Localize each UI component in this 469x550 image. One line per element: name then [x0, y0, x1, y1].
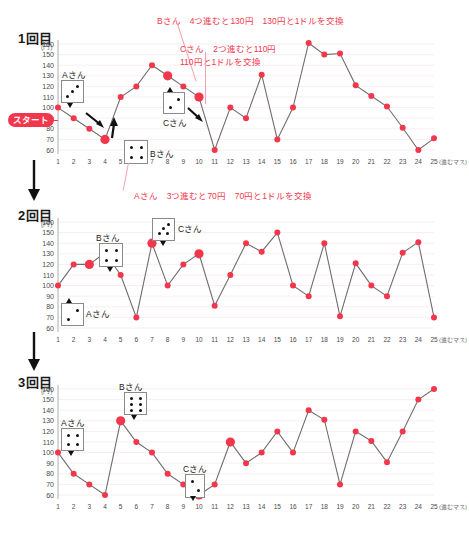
data-point	[163, 71, 172, 80]
x-tick-label: 10	[195, 503, 203, 510]
data-point	[165, 283, 171, 289]
data-point	[259, 450, 265, 456]
dice-a-round-3	[61, 428, 84, 451]
data-point	[194, 249, 203, 258]
annotation-c-round-1: Cさん 2つ進むと110円	[180, 42, 276, 54]
x-tick-label: 4	[103, 336, 107, 343]
x-tick-label: 2	[72, 158, 76, 165]
y-tick-label: 120	[42, 261, 54, 268]
y-tick-label: 60	[46, 147, 54, 154]
dice-a-round-2	[61, 303, 84, 326]
dice-c-caret-round-3	[190, 496, 196, 501]
x-tick-label: 20	[352, 503, 360, 510]
y-tick-label: 110	[43, 94, 54, 101]
y-tick-label: 160	[42, 219, 54, 226]
transition-arrow-1	[26, 160, 42, 202]
x-tick-label: 18	[321, 158, 329, 165]
dice-b-label-round-1: Bさん	[150, 147, 174, 159]
x-tick-label: 11	[211, 158, 218, 165]
dice-b-label-round-3: Bさん	[119, 380, 143, 392]
x-tick-label: 2	[72, 503, 76, 510]
data-point	[415, 397, 421, 403]
x-tick-label: 2	[72, 336, 76, 343]
x-tick-label: 4	[103, 158, 107, 165]
x-tick-label: 12	[227, 158, 235, 165]
x-tick-label: 14	[258, 503, 266, 510]
x-tick-label: 22	[383, 158, 391, 165]
data-point	[431, 135, 437, 141]
data-point	[149, 450, 155, 456]
data-point	[133, 83, 139, 89]
data-point	[133, 439, 139, 445]
annotation-c2-round-1: 110円と1ドルを交換	[180, 55, 261, 67]
y-tick-label: 100	[42, 104, 54, 111]
x-tick-label: 23	[399, 158, 407, 165]
x-tick-label: 8	[166, 336, 170, 343]
x-tick-label: 12	[227, 503, 235, 510]
data-point	[227, 105, 233, 111]
y-tick-label: 140	[42, 240, 54, 247]
x-tick-label: 25	[430, 336, 438, 343]
x-tick-label: 25	[430, 158, 438, 165]
dice-c-caret-round-2	[160, 241, 166, 246]
data-point	[180, 261, 186, 267]
y-tick-label: 110	[43, 272, 54, 279]
y-tick-label: 120	[42, 428, 54, 435]
x-tick-label: 13	[242, 158, 250, 165]
y-tick-label: 90	[46, 460, 54, 467]
y-tick-label: 100	[42, 449, 54, 456]
data-point	[194, 92, 203, 101]
chart-2: 6070809010011012013014015016012345678910…	[0, 212, 469, 358]
data-point	[86, 481, 92, 487]
data-point	[243, 115, 249, 121]
x-axis-unit: (進むマス)	[439, 503, 467, 511]
x-tick-label: 7	[150, 503, 154, 510]
dice-b-round-3	[124, 392, 147, 415]
y-tick-label: 160	[42, 41, 54, 48]
y-tick-label: 100	[42, 282, 54, 289]
x-tick-label: 9	[182, 336, 186, 343]
dice-c-round-3	[185, 474, 205, 498]
x-tick-label: 9	[182, 158, 186, 165]
data-point	[431, 314, 437, 320]
x-tick-label: 18	[321, 336, 329, 343]
x-tick-label: 7	[150, 158, 154, 165]
data-point	[212, 481, 218, 487]
data-point	[306, 293, 312, 299]
data-point	[243, 240, 249, 246]
data-point	[133, 314, 139, 320]
x-tick-label: 21	[368, 336, 376, 343]
data-point	[353, 428, 359, 434]
data-point	[226, 437, 235, 446]
dice-c-label-round-2: Cさん	[178, 222, 202, 234]
x-tick-label: 1	[56, 336, 60, 343]
x-tick-label: 5	[119, 158, 123, 165]
dice-b-round-2	[99, 243, 123, 267]
x-tick-label: 16	[289, 158, 297, 165]
data-point	[180, 83, 186, 89]
x-tick-label: 14	[258, 158, 266, 165]
x-tick-label: 23	[399, 336, 407, 343]
y-tick-label: 80	[46, 470, 54, 477]
x-tick-label: 17	[305, 158, 313, 165]
start-badge-tail	[48, 120, 58, 121]
dice-b-label-round-2: Bさん	[96, 231, 120, 243]
dice-a-label-round-2: Aさん	[86, 307, 110, 319]
x-tick-label: 5	[119, 503, 123, 510]
x-tick-label: 16	[289, 503, 297, 510]
dice-c-caret-round-1	[167, 87, 173, 92]
x-tick-label: 24	[415, 158, 423, 165]
data-point	[274, 136, 280, 142]
x-tick-label: 21	[368, 158, 376, 165]
data-point	[368, 438, 374, 444]
y-tick-label: 140	[42, 407, 54, 414]
data-point	[243, 460, 249, 466]
x-tick-label: 15	[274, 158, 282, 165]
x-tick-label: 23	[399, 503, 407, 510]
data-point	[290, 450, 296, 456]
data-point	[55, 105, 61, 111]
x-tick-label: 19	[336, 158, 344, 165]
data-point	[259, 72, 265, 78]
dice-a-round-1	[61, 80, 84, 103]
x-tick-label: 11	[211, 503, 218, 510]
